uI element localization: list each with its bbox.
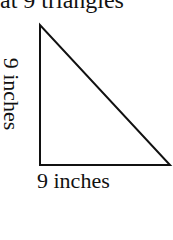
vertical-leg-label: 9 inches [0, 44, 23, 144]
horizontal-leg-label: 9 inches [37, 168, 110, 194]
